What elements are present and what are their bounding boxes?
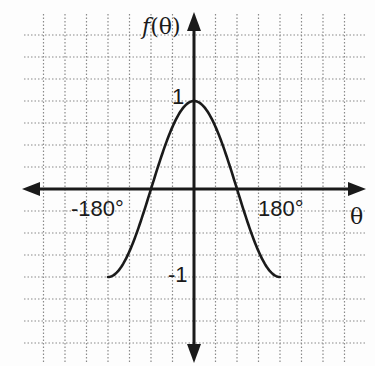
x-axis-label: θ <box>350 204 363 229</box>
y-max-label: 1 <box>172 84 184 109</box>
y-axis-top-arrow-icon <box>187 12 201 31</box>
graph-canvas: f(θ) θ 1 -1 -180° 180° <box>0 0 375 366</box>
x-max-label: 180° <box>258 196 304 221</box>
y-axis-label-arg: (θ) <box>150 14 180 39</box>
y-axis-label: f(θ) <box>140 14 181 39</box>
x-axis-left-arrow-icon <box>22 182 40 196</box>
x-axis-right-arrow-icon <box>348 182 366 196</box>
y-axis-bottom-arrow-icon <box>187 344 201 363</box>
x-min-label: -180° <box>71 196 124 221</box>
cosine-graph: f(θ) θ 1 -1 -180° 180° <box>0 0 375 366</box>
y-min-label: -1 <box>168 262 188 287</box>
